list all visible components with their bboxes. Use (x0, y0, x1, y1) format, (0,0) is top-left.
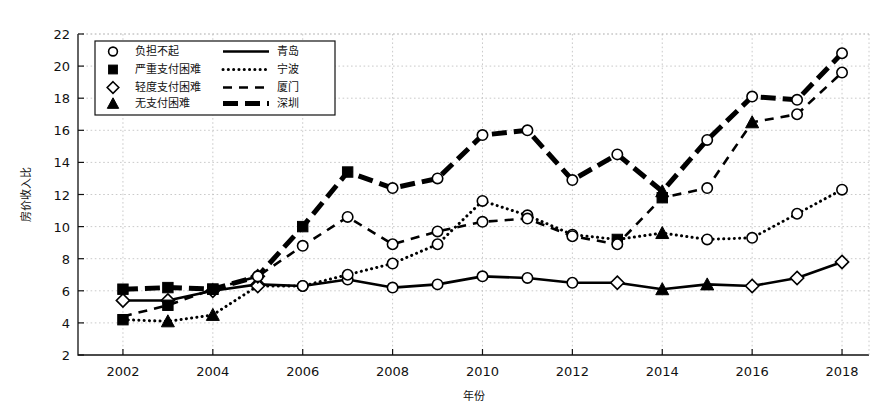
data-point-diamond (746, 279, 759, 292)
data-point-diamond (611, 276, 624, 289)
data-point-triangle (161, 315, 174, 327)
data-point-circle (567, 175, 577, 185)
x-tick-label: 2002 (106, 364, 139, 379)
x-tick-label: 2018 (825, 364, 858, 379)
x-tick-label: 2006 (286, 364, 319, 379)
data-point-circle (567, 278, 577, 288)
data-point-diamond (790, 271, 803, 284)
y-axis-title: 房价收入比 (19, 167, 33, 222)
data-point-circle (522, 125, 532, 135)
y-tick-label: 22 (53, 27, 70, 42)
data-point-circle (253, 271, 263, 281)
data-point-circle (109, 47, 118, 56)
data-point-circle (702, 234, 712, 244)
data-point-circle (792, 95, 802, 105)
data-point-circle (298, 281, 308, 291)
data-point-circle (792, 209, 802, 219)
data-point-circle (298, 241, 308, 251)
y-tick-label: 20 (53, 59, 70, 74)
data-point-circle (432, 279, 442, 289)
data-point-square (163, 300, 173, 310)
data-point-circle (387, 258, 397, 268)
legend-line-label: 深圳 (277, 97, 299, 110)
data-point-circle (792, 109, 802, 119)
legend-line-label: 宁波 (277, 62, 299, 76)
data-point-square (163, 282, 173, 292)
y-tick-label: 16 (53, 123, 70, 138)
legend-marker-label: 无支付困难 (135, 97, 190, 110)
legend-line-label: 青岛 (277, 44, 299, 58)
chart-root: 200220042006200820102012201420162018 246… (0, 0, 890, 417)
data-point-circle (837, 48, 847, 58)
data-point-circle (612, 239, 622, 249)
data-point-circle (387, 239, 397, 249)
data-point-square (118, 284, 128, 294)
data-point-circle (432, 239, 442, 249)
x-tick-label: 2008 (376, 364, 409, 379)
series-line-宁波 (123, 190, 842, 322)
x-axis-title: 年份 (463, 389, 485, 403)
data-point-circle (342, 270, 352, 280)
data-point-square (298, 221, 308, 231)
x-tick-label: 2012 (556, 364, 589, 379)
data-point-circle (342, 212, 352, 222)
data-point-circle (522, 273, 532, 283)
legend-marker-label: 严重支付困难 (135, 62, 201, 76)
y-tick-label: 12 (53, 188, 70, 203)
y-tick-label: 10 (53, 220, 70, 235)
y-tick-labels: 246810121416182022 (53, 27, 70, 363)
legend: 负担不起严重支付困难轻度支付困难无支付困难青岛宁波厦门深圳 (95, 41, 335, 115)
data-point-diamond (835, 255, 848, 268)
data-point-circle (387, 282, 397, 292)
legend-marker-label: 轻度支付困难 (135, 80, 201, 94)
line-chart-svg: 200220042006200820102012201420162018 246… (0, 0, 890, 417)
data-point-circle (522, 213, 532, 223)
data-point-circle (477, 271, 487, 281)
data-point-diamond (116, 294, 129, 307)
data-point-circle (432, 226, 442, 236)
y-tick-label: 8 (62, 252, 70, 267)
y-tick-label: 2 (62, 348, 70, 363)
y-tick-label: 18 (53, 91, 70, 106)
data-point-square (109, 65, 118, 74)
series-宁波 (118, 184, 847, 326)
y-tick-label: 6 (62, 284, 70, 299)
x-tick-label: 2004 (196, 364, 229, 379)
data-point-square (208, 284, 218, 294)
x-tick-label: 2014 (646, 364, 679, 379)
data-point-circle (567, 231, 577, 241)
data-point-circle (702, 135, 712, 145)
x-tick-label: 2010 (466, 364, 499, 379)
data-point-circle (387, 183, 397, 193)
data-point-circle (837, 184, 847, 194)
x-tick-label: 2016 (736, 364, 769, 379)
data-point-square (342, 167, 352, 177)
data-point-circle (837, 67, 847, 77)
legend-marker-label: 负担不起 (135, 44, 179, 58)
y-tick-label: 4 (62, 316, 70, 331)
data-point-triangle (206, 308, 219, 320)
data-point-circle (477, 196, 487, 206)
y-tick-label: 14 (53, 155, 70, 170)
data-point-circle (612, 149, 622, 159)
legend-box (95, 41, 335, 115)
data-point-circle (702, 183, 712, 193)
data-point-circle (747, 233, 757, 243)
data-point-circle (477, 130, 487, 140)
data-point-circle (747, 91, 757, 101)
legend-line-label: 厦门 (277, 80, 299, 94)
x-tick-labels: 200220042006200820102012201420162018 (106, 364, 858, 379)
data-point-circle (477, 217, 487, 227)
data-point-circle (432, 173, 442, 183)
chart-canvas: 200220042006200820102012201420162018 246… (0, 0, 890, 417)
